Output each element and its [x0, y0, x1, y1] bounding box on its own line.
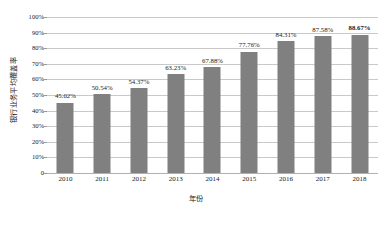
bars-layer: 45.02%50.54%54.37%63.23%67.88%77.76%84.3…	[47, 17, 378, 173]
x-axis-tick-labels: 201020112012201320142015201620172018	[47, 176, 378, 188]
bar-data-label: 77.76%	[239, 42, 260, 49]
bar-group: 67.88%	[194, 17, 231, 173]
y-tick-label: 80%	[32, 45, 44, 52]
bar[interactable]	[57, 103, 74, 173]
x-tick-label: 2017	[316, 176, 330, 183]
bar-group: 87.58%	[304, 17, 341, 173]
y-tick-label: 70%	[32, 61, 44, 68]
y-tick-label: 50%	[32, 92, 44, 99]
bar-data-label: 45.02%	[55, 93, 76, 100]
x-tick-label: 2012	[132, 176, 146, 183]
bar[interactable]	[314, 36, 331, 173]
y-tick-label: 40%	[32, 107, 44, 114]
x-axis-title: 年份	[0, 192, 391, 203]
bar-data-label: 67.88%	[202, 58, 223, 65]
bar-group: 45.02%	[47, 17, 84, 173]
bar[interactable]	[130, 88, 147, 173]
x-tick-label: 2015	[242, 176, 256, 183]
bar-group: 54.37%	[121, 17, 158, 173]
bar-data-label: 50.54%	[92, 85, 113, 92]
x-tick-label: 2010	[58, 176, 72, 183]
bar-data-label: 87.58%	[312, 27, 333, 34]
bar[interactable]	[278, 41, 295, 173]
y-tick-label: 60%	[32, 76, 44, 83]
y-tick-label: 20%	[32, 139, 44, 146]
y-tick-label: 10%	[32, 154, 44, 161]
bar-data-label: 84.31%	[276, 32, 297, 39]
y-axis-title-label: 银行业务平均覆盖率	[8, 57, 18, 123]
y-tick-label: 90%	[32, 29, 44, 36]
bar[interactable]	[241, 52, 258, 173]
bar-data-label: 63.23%	[165, 65, 186, 72]
bar-data-label: 54.37%	[128, 79, 149, 86]
gridline	[47, 173, 378, 174]
bar-group: 63.23%	[157, 17, 194, 173]
x-tick-label: 2016	[279, 176, 293, 183]
bar-group: 88.67%	[341, 17, 378, 173]
bar[interactable]	[204, 67, 221, 173]
y-tick-label: 100%	[29, 14, 44, 21]
plot-area: 45.02%50.54%54.37%63.23%67.88%77.76%84.3…	[47, 17, 378, 173]
x-tick-label: 2011	[95, 176, 109, 183]
bar[interactable]	[167, 74, 184, 173]
bar-group: 50.54%	[84, 17, 121, 173]
y-axis-tick-labels: 010%20%30%40%50%60%70%80%90%100%	[18, 17, 46, 173]
bar-data-label: 88.67%	[349, 25, 371, 32]
bar[interactable]	[351, 35, 368, 173]
bar-group: 77.76%	[231, 17, 268, 173]
x-tick-label: 2013	[169, 176, 183, 183]
x-tick-label: 2014	[206, 176, 220, 183]
y-tick-label: 30%	[32, 123, 44, 130]
y-tick-mark	[44, 173, 47, 174]
bar-chart: 银行业务平均覆盖率 010%20%30%40%50%60%70%80%90%10…	[0, 0, 391, 226]
bar[interactable]	[94, 94, 111, 173]
bar-group: 84.31%	[268, 17, 305, 173]
x-tick-label: 2018	[353, 176, 367, 183]
